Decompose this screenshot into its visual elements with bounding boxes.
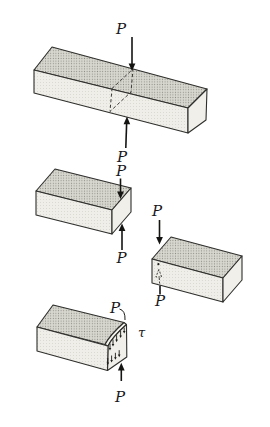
left-segment-shear-force-label: P [115,249,127,267]
right-segment-shear-force-label: P [151,202,163,220]
figure-right-segment: P P [151,202,242,310]
right-segment-bottom-force-label: P [154,292,166,310]
bar-bottom-force-arrow [126,124,127,148]
stress-block-reaction-force-label: P [114,388,126,406]
diagram-canvas: P P P P P P [0,0,270,427]
figure-left-segment: P P [36,162,131,267]
stress-block-reaction-arrowhead-icon [118,363,125,371]
figure-loaded-bar: P P [34,20,207,166]
stress-block-edge-force-label: P [109,299,121,317]
shear-diagram-svg: P P P P P P [0,0,270,427]
right-segment-hidden-arrow-tip-dot [157,263,159,265]
right-segment-shear-force-arrowhead-icon [156,237,163,245]
shear-stress-tau-label: τ [138,325,146,340]
bar-top-force-label: P [115,20,127,38]
edge-force-leader-line [120,309,126,320]
left-segment-top-force-label: P [115,162,127,180]
figure-shear-stress-block: P τ P [37,299,146,406]
